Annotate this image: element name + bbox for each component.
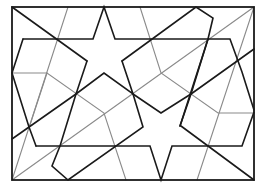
- lower-star-band: [36, 112, 254, 180]
- left-lower-polygon: [52, 94, 143, 180]
- upper-right-diagonal: [191, 49, 254, 94]
- upper-star-band: [23, 7, 254, 110]
- geometric-pattern-figure: [0, 0, 268, 188]
- top-left-diagonal: [12, 7, 87, 61]
- upper-star-left-arm: [76, 61, 133, 94]
- right-upper-polygon: [122, 7, 213, 94]
- bottom-right-diagonal: [181, 126, 254, 180]
- lower-left-diagonal: [12, 94, 76, 139]
- right-polygon-lower-side: [180, 39, 208, 126]
- gray-right-steep-diagonal: [197, 7, 254, 180]
